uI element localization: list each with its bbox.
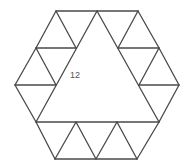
line-segment (159, 48, 179, 85)
line-segment (36, 122, 55, 159)
line-segment (159, 85, 179, 122)
line-segment (117, 122, 137, 159)
diagram-lines (15, 11, 179, 159)
line-segment (36, 11, 56, 48)
line-segment (96, 122, 117, 159)
line-segment (15, 48, 36, 85)
line-segment (55, 122, 76, 159)
hexagon-triangle-diagram: 12 (0, 0, 186, 165)
line-segment (137, 122, 159, 159)
line-segment (76, 122, 96, 159)
line-segment (36, 48, 56, 85)
line-segment (36, 11, 97, 122)
triangle-label: 12 (70, 70, 80, 80)
line-segment (118, 11, 138, 48)
line-segment (139, 48, 159, 85)
line-segment (15, 85, 36, 122)
line-segment (56, 11, 76, 48)
line-segment (138, 11, 159, 48)
